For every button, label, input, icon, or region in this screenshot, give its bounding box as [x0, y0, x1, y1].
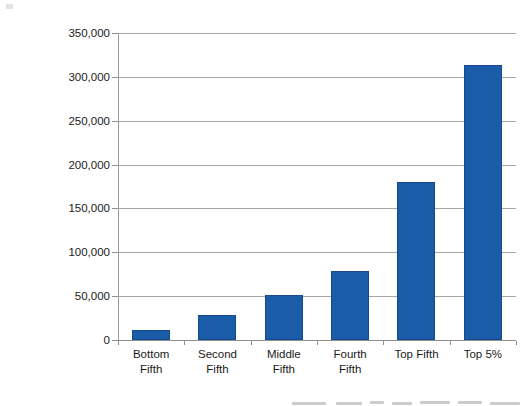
bar-top-5[interactable] — [464, 65, 502, 340]
x-axis-tick-label: Top Fifth — [383, 347, 449, 362]
x-axis-tick — [251, 341, 252, 345]
bar-chart: Average Household Income ($) 050,000100,… — [0, 0, 529, 406]
y-axis-tick-label: 200,000 — [30, 159, 110, 171]
bar-slot — [383, 33, 449, 340]
y-axis-tick-labels: 050,000100,000150,000200,000250,000300,0… — [28, 33, 110, 340]
x-axis-tick — [317, 341, 318, 345]
x-axis-ticks — [118, 341, 517, 346]
y-axis-tick-label: 250,000 — [30, 115, 110, 127]
x-axis-tick-label: Top 5% — [450, 347, 516, 362]
y-axis-tick-label: 150,000 — [30, 202, 110, 214]
bar-slot — [184, 33, 250, 340]
x-axis-tick — [516, 341, 517, 345]
x-axis-tick — [184, 341, 185, 345]
bar-top-fifth[interactable] — [397, 182, 435, 340]
bar-fourth-fifth[interactable] — [331, 271, 369, 340]
bar-slot — [118, 33, 184, 340]
bar-slot — [317, 33, 383, 340]
y-axis-tick-label: 300,000 — [30, 71, 110, 83]
x-axis-tick-label: MiddleFifth — [251, 347, 317, 377]
x-axis-tick-label: BottomFifth — [118, 347, 184, 377]
bar-middle-fifth[interactable] — [265, 295, 303, 340]
bar-series — [118, 33, 516, 340]
x-axis-tick-label: SecondFifth — [184, 347, 250, 377]
scan-artifact-bottom — [290, 396, 526, 406]
x-axis-tick — [450, 341, 451, 345]
y-axis-tick-label: 100,000 — [30, 246, 110, 258]
bar-second-fifth[interactable] — [198, 315, 236, 340]
bar-bottom-fifth[interactable] — [132, 330, 170, 340]
scan-artifact-top — [6, 4, 13, 9]
y-axis-tick-label: 350,000 — [30, 27, 110, 39]
x-axis-tick — [118, 341, 119, 345]
bar-slot — [450, 33, 516, 340]
x-axis-tick — [383, 341, 384, 345]
y-axis-tick-label: 0 — [30, 334, 110, 346]
x-axis-tick-label: FourthFifth — [317, 347, 383, 377]
bar-slot — [251, 33, 317, 340]
x-axis-tick-labels: BottomFifthSecondFifthMiddleFifthFourthF… — [118, 347, 516, 389]
y-axis-tick-label: 50,000 — [30, 290, 110, 302]
